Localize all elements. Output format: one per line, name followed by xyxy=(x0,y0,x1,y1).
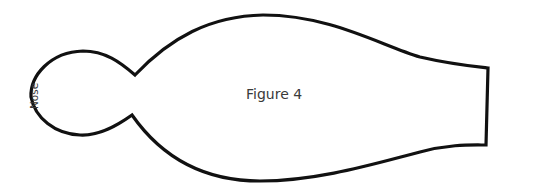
figure-caption: Figure 4 xyxy=(246,86,302,102)
nose-label: Nose xyxy=(28,83,40,109)
